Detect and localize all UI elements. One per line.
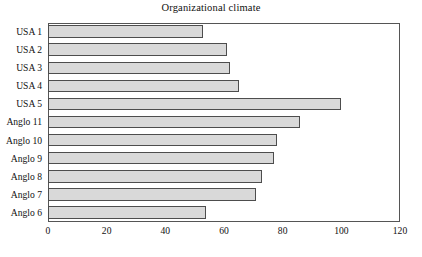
- bar-row: [48, 95, 400, 112]
- bar-usa-5: [48, 98, 341, 110]
- bar-anglo-11: [48, 116, 300, 128]
- bar-anglo-7: [48, 188, 256, 200]
- y-axis-label-usa-3: USA 3: [16, 59, 42, 76]
- bar-row: [48, 77, 400, 94]
- bar-anglo-9: [48, 152, 274, 164]
- bar-row: [48, 150, 400, 167]
- x-tick-60: 60: [219, 224, 229, 238]
- chart-figure: Organizational climate USA 1USA 2USA 3US…: [0, 0, 422, 257]
- bar-series: [48, 23, 400, 222]
- y-axis-label-anglo-9: Anglo 9: [11, 150, 42, 167]
- x-tick-40: 40: [161, 224, 171, 238]
- bar-row: [48, 113, 400, 130]
- x-tick-0: 0: [46, 224, 51, 238]
- bar-usa-1: [48, 25, 203, 37]
- y-axis-label-anglo-11: Anglo 11: [6, 113, 42, 130]
- y-axis-label-usa-4: USA 4: [16, 77, 42, 94]
- bar-anglo-6: [48, 206, 206, 218]
- bar-row: [48, 204, 400, 221]
- x-tick-80: 80: [278, 224, 288, 238]
- y-axis-category-labels: USA 1USA 2USA 3USA 4USA 5Anglo 11Anglo 1…: [0, 23, 45, 222]
- bar-row: [48, 41, 400, 58]
- bar-usa-3: [48, 62, 230, 74]
- bar-row: [48, 132, 400, 149]
- y-axis-label-anglo-6: Anglo 6: [11, 204, 42, 221]
- x-axis-tick-labels: 020406080100120: [48, 224, 400, 240]
- y-axis-label-anglo-7: Anglo 7: [11, 186, 42, 203]
- bar-anglo-10: [48, 134, 277, 146]
- chart-title: Organizational climate: [0, 2, 422, 13]
- y-axis-label-anglo-8: Anglo 8: [11, 168, 42, 185]
- y-axis-label-anglo-10: Anglo 10: [6, 132, 42, 149]
- bar-row: [48, 186, 400, 203]
- bar-usa-4: [48, 80, 239, 92]
- x-tick-20: 20: [102, 224, 112, 238]
- bar-anglo-8: [48, 170, 262, 182]
- y-axis-label-usa-1: USA 1: [16, 23, 42, 40]
- bar-row: [48, 59, 400, 76]
- bar-row: [48, 23, 400, 40]
- x-tick-120: 120: [393, 224, 407, 238]
- x-tick-100: 100: [334, 224, 348, 238]
- y-axis-label-usa-2: USA 2: [16, 41, 42, 58]
- bar-row: [48, 168, 400, 185]
- y-axis-label-usa-5: USA 5: [16, 95, 42, 112]
- bar-usa-2: [48, 43, 227, 55]
